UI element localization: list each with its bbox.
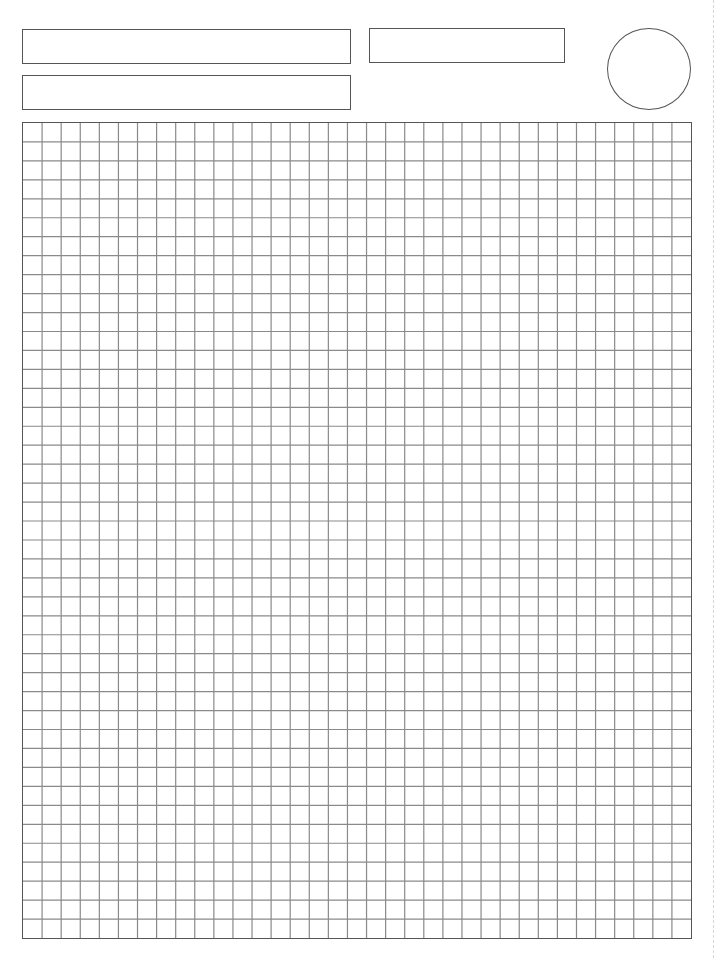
graph-grid — [22, 122, 692, 939]
header-field-top-left[interactable] — [22, 29, 351, 64]
header-field-top-right[interactable] — [369, 28, 565, 63]
header-circle-field[interactable] — [607, 28, 691, 110]
header-field-bottom-left[interactable] — [22, 75, 351, 110]
cut-line — [713, 0, 714, 958]
grid-lines — [23, 123, 691, 938]
